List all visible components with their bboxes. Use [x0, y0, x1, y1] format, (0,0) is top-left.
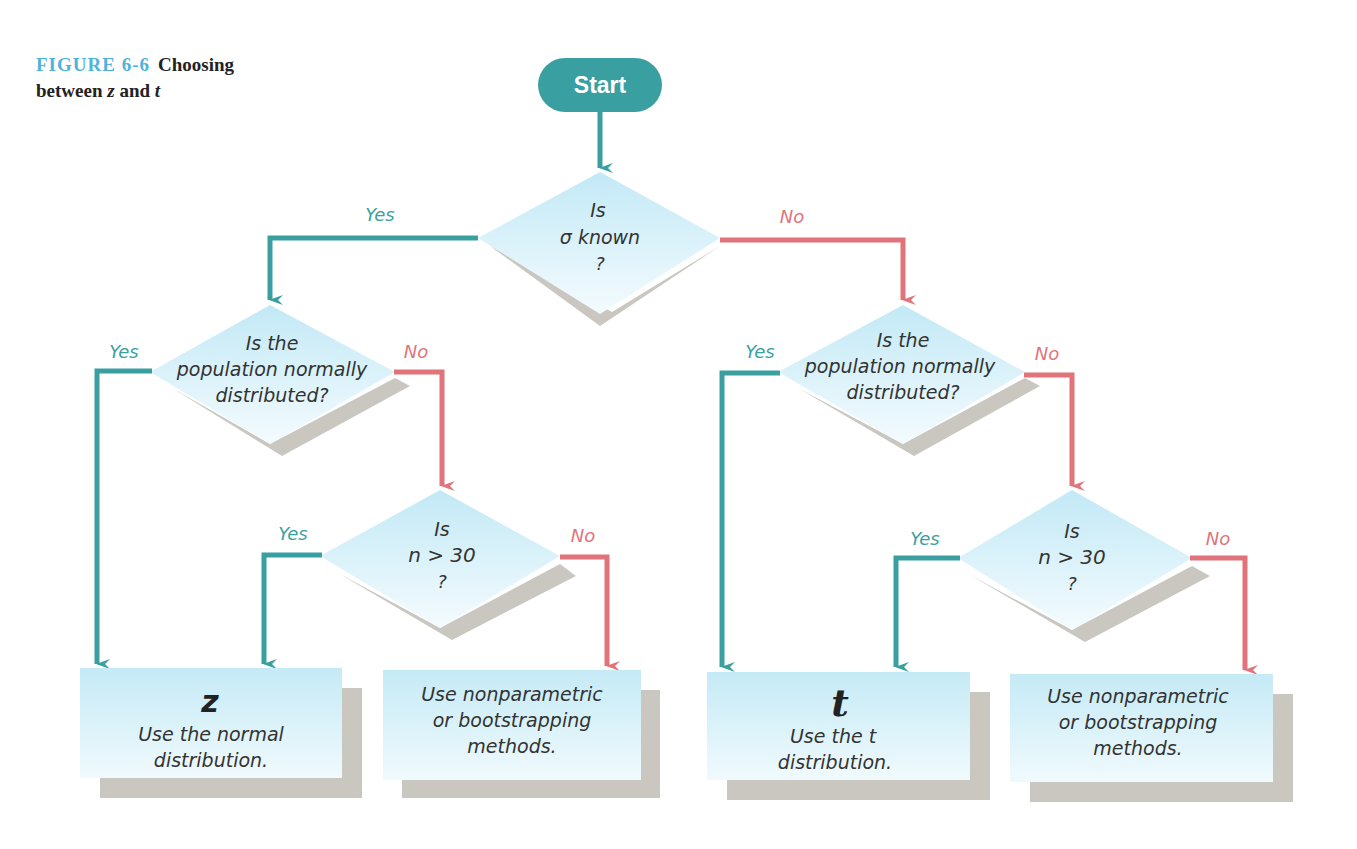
svg-text:Use the t: Use the t: [790, 725, 878, 747]
decision-normal-left: Is the population normally distributed?: [150, 305, 410, 456]
svg-text:population normally: population normally: [804, 355, 996, 377]
decision-n-left: Is n > 30 ?: [320, 490, 576, 640]
label-no-n-left: No: [571, 525, 595, 546]
svg-text:Use nonparametric: Use nonparametric: [421, 683, 603, 705]
svg-text:n > 30: n > 30: [408, 543, 476, 567]
svg-text:?: ?: [595, 253, 605, 274]
svg-text:Is: Is: [590, 199, 606, 221]
svg-text:σ known: σ known: [560, 226, 640, 248]
svg-text:Use nonparametric: Use nonparametric: [1047, 685, 1229, 707]
decision-sigma-known: Is σ known ?: [478, 172, 720, 326]
svg-text:population normally: population normally: [176, 358, 368, 380]
svg-text:?: ?: [1067, 573, 1077, 594]
arrow-sigma-no: [720, 240, 903, 300]
label-yes-normal-left: Yes: [109, 341, 138, 362]
svg-text:methods.: methods.: [467, 735, 556, 757]
decision-n-right: Is n > 30 ?: [958, 490, 1210, 642]
outcome-nonparametric-right-box: Use nonparametric or bootstrapping metho…: [1010, 674, 1293, 802]
svg-text:or bootstrapping: or bootstrapping: [1059, 711, 1218, 733]
symbol-t: t: [831, 680, 849, 725]
svg-text:Is: Is: [434, 518, 450, 540]
arrow-n-left-yes: [264, 555, 322, 664]
start-node: Start: [538, 58, 662, 112]
svg-text:distributed?: distributed?: [846, 381, 959, 403]
svg-text:n > 30: n > 30: [1038, 545, 1106, 569]
outcome-z-box: z Use the normal distribution.: [80, 668, 362, 798]
label-yes-n-right: Yes: [910, 528, 939, 549]
svg-text:or bootstrapping: or bootstrapping: [433, 709, 592, 731]
svg-text:methods.: methods.: [1093, 737, 1182, 759]
label-yes-n-left: Yes: [278, 523, 307, 544]
decision-normal-right: Is the population normally distributed?: [778, 305, 1040, 456]
arrow-normal-right-no: [1024, 375, 1072, 486]
label-yes-normal-right: Yes: [745, 341, 774, 362]
outcome-nonparametric-left-box: Use nonparametric or bootstrapping metho…: [383, 670, 660, 798]
svg-text:Is the: Is the: [877, 329, 930, 351]
label-yes-sigma: Yes: [365, 204, 394, 225]
svg-text:distribution.: distribution.: [154, 749, 268, 771]
symbol-z: z: [200, 684, 219, 719]
svg-text:Is: Is: [1064, 520, 1080, 542]
svg-text:?: ?: [437, 571, 447, 592]
svg-text:distribution.: distribution.: [778, 751, 892, 773]
arrow-normal-left-yes: [97, 371, 152, 664]
label-no-normal-left: No: [404, 341, 428, 362]
svg-text:distributed?: distributed?: [215, 384, 328, 406]
flowchart: Start Is σ known ? Yes No Is the populat…: [0, 0, 1357, 849]
start-label: Start: [574, 72, 627, 98]
svg-text:Use the normal: Use the normal: [138, 723, 284, 745]
arrow-n-right-yes: [896, 558, 960, 667]
outcome-t-box: t Use the t distribution.: [707, 672, 990, 800]
label-no-normal-right: No: [1035, 343, 1059, 364]
svg-text:Is the: Is the: [246, 332, 299, 354]
label-no-sigma: No: [780, 206, 804, 227]
arrow-normal-right-yes: [722, 373, 780, 667]
arrow-sigma-yes: [270, 238, 478, 300]
label-no-n-right: No: [1206, 528, 1230, 549]
